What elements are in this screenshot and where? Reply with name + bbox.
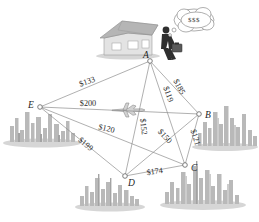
airplane-icon <box>112 103 145 117</box>
edge-weight-E-D: $199 <box>76 135 94 152</box>
edge-weight-A-D: $152 <box>138 118 149 135</box>
graph-nodes <box>38 59 202 179</box>
city-skyline-icon-e <box>3 112 81 148</box>
node-label-D: D <box>127 178 135 188</box>
diagram-canvas: $$$ $133 $200 $120 $199 $185 $ <box>0 0 259 222</box>
node-label-B: B <box>205 110 211 120</box>
node-D[interactable] <box>123 174 128 179</box>
node-B[interactable] <box>197 112 202 117</box>
edge-weight-D-C: $174 <box>146 166 163 177</box>
briefcase-icon <box>172 44 182 52</box>
house-icon <box>96 21 160 60</box>
thought-bubble-text: $$$ <box>188 16 200 24</box>
node-label-A: A <box>142 50 149 60</box>
edge-weight-labels: $133 $200 $120 $199 $185 $119 $152 $150 … <box>76 75 202 177</box>
edge-weight-E-C: $120 <box>98 122 116 134</box>
node-label-E: E <box>27 100 34 110</box>
businessman-icon <box>161 27 182 60</box>
node-C[interactable] <box>183 163 188 168</box>
node-label-C: C <box>191 163 198 173</box>
edge-weight-E-B: $200 <box>80 99 96 108</box>
edge-weight-D-B: $150 <box>156 127 174 145</box>
node-E[interactable] <box>38 105 43 110</box>
city-skyline-icon-c <box>160 161 246 210</box>
graph-edges <box>40 61 199 176</box>
edge-weight-E-A: $133 <box>78 75 96 89</box>
edge-E-B <box>40 107 199 114</box>
city-skyline-icon-b <box>192 106 258 151</box>
